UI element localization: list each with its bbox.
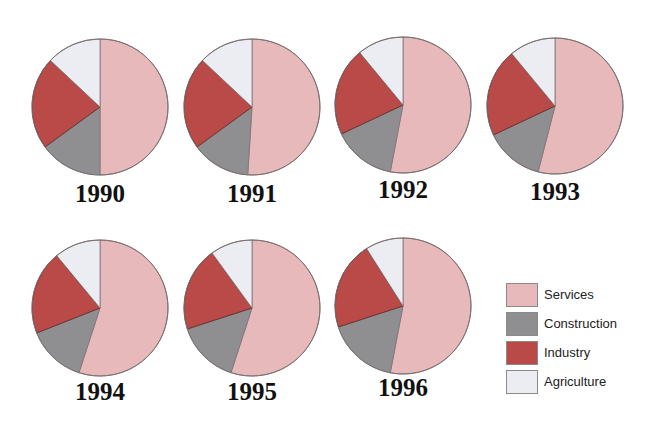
pie-chart-1993: 1993 — [480, 36, 630, 212]
pie-chart-1990: 1990 — [25, 37, 175, 214]
legend-label: Construction — [544, 316, 617, 331]
legend-label: Agriculture — [544, 374, 606, 389]
legend-item-services: Services — [506, 280, 617, 309]
year-label: 1992 — [328, 176, 478, 204]
industry-swatch — [506, 341, 538, 365]
slice-services — [248, 39, 320, 175]
slice-services — [100, 39, 168, 175]
legend-label: Services — [544, 287, 594, 302]
services-swatch — [506, 283, 538, 307]
pie-chart-1992: 1992 — [328, 35, 478, 210]
year-label: 1996 — [328, 374, 478, 402]
year-label: 1994 — [25, 378, 175, 406]
legend: Services Construction Industry Agricultu… — [506, 280, 617, 396]
pie-chart-1996: 1996 — [328, 236, 478, 408]
legend-item-agriculture: Agriculture — [506, 367, 617, 396]
year-label: 1995 — [177, 378, 327, 406]
legend-item-construction: Construction — [506, 309, 617, 338]
agriculture-swatch — [506, 370, 538, 394]
pie-chart-1994: 1994 — [25, 238, 175, 412]
legend-item-industry: Industry — [506, 338, 617, 367]
year-label: 1990 — [25, 180, 175, 208]
pie-chart-1991: 1991 — [177, 37, 327, 214]
year-label: 1993 — [480, 178, 630, 206]
construction-swatch — [506, 312, 538, 336]
pie-chart-1995: 1995 — [177, 238, 327, 412]
year-label: 1991 — [177, 180, 327, 208]
legend-label: Industry — [544, 345, 590, 360]
